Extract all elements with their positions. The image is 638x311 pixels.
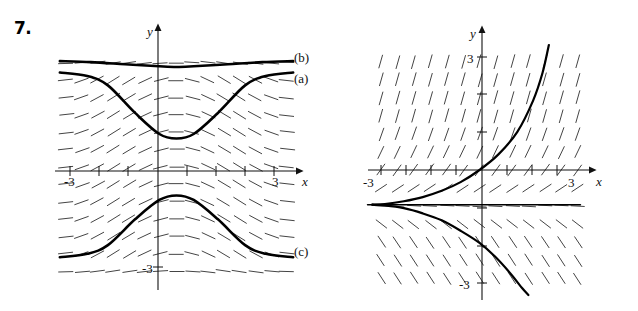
solution-curves-7	[60, 61, 293, 257]
solution-curve-c	[60, 195, 293, 257]
figure-9: 9.	[318, 0, 638, 311]
x-axis-label-9: x	[595, 174, 602, 189]
curve-label-c: (c)	[294, 244, 308, 259]
axes-7	[55, 30, 297, 290]
direction-field-7	[58, 61, 295, 273]
figure-7: 7.	[0, 0, 318, 311]
figure-9-svg: x y -3 3 3 -3	[318, 0, 638, 311]
y-tick-label-3-9: 3	[467, 51, 474, 66]
problem-number-7: 7.	[14, 18, 31, 38]
curve-label-b: (b)	[294, 50, 309, 65]
axes-9	[368, 32, 590, 300]
x-tick-label-neg3-7: -3	[64, 174, 75, 189]
x-axis-label-7: x	[301, 174, 308, 189]
y-axis-label-9: y	[468, 26, 476, 41]
y-tick-label-neg3-9: -3	[459, 277, 470, 292]
figure-page: 7.	[0, 0, 638, 311]
x-tick-label-neg3-9: -3	[363, 175, 374, 190]
solution-curve-a	[60, 73, 293, 139]
curve-label-a: (a)	[294, 71, 308, 86]
y-axis-label-7: y	[145, 24, 153, 39]
figure-7-svg: x y -3 3 -3 (b) (a) (c)	[0, 0, 318, 311]
solution-curve-lower	[372, 205, 528, 295]
solution-curve-upper	[372, 45, 549, 205]
y-tick-label-neg3-7: -3	[142, 261, 153, 276]
x-tick-label-3-9: 3	[568, 175, 575, 190]
x-tick-label-3-7: 3	[272, 174, 279, 189]
